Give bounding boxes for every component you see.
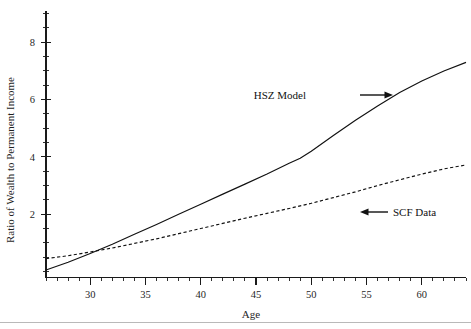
y-axis-title: Ratio of Wealth to Permanent Income: [4, 77, 16, 243]
y-tick-label: 4: [30, 152, 36, 163]
x-tick-label: 45: [251, 289, 262, 300]
x-tick-label: 30: [85, 289, 96, 300]
y-tick-label: 8: [30, 37, 35, 48]
x-tick-label: 40: [195, 289, 206, 300]
scf-data-annotation-label: SCF Data: [393, 206, 436, 218]
y-tick-label: 2: [30, 209, 35, 220]
annotations-group: HSZ ModelSCF Data: [254, 89, 436, 218]
x-tick-label: 55: [361, 289, 372, 300]
hsz-model-annotation-label: HSZ Model: [254, 89, 306, 101]
y-axis: 2468: [30, 11, 51, 278]
x-tick-label: 50: [306, 289, 317, 300]
x-axis-title: Age: [242, 308, 260, 320]
x-axis: 30354045505560: [46, 278, 466, 300]
scf-data-annotation-arrow-head: [360, 208, 369, 215]
y-tick-label: 6: [30, 94, 35, 105]
chart-canvas: 2468 30354045505560 HSZ ModelSCF Data Ag…: [0, 0, 471, 329]
figure-container: 2468 30354045505560 HSZ ModelSCF Data Ag…: [0, 0, 471, 329]
x-tick-label: 60: [417, 289, 428, 300]
x-tick-label: 35: [140, 289, 151, 300]
